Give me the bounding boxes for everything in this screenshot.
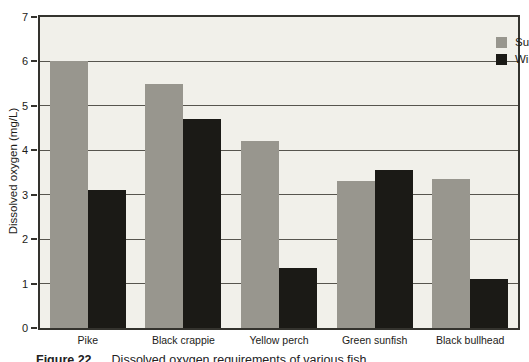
bar-summer-black-bullhead	[432, 179, 470, 328]
bar-winter-green-sunfish	[375, 170, 413, 328]
y-tick-mark-6	[31, 60, 37, 62]
figure-caption-label: Figure 22	[36, 353, 92, 362]
bar-winter-yellow-perch	[279, 268, 317, 328]
bar-winter-black-bullhead	[470, 279, 508, 328]
bar-winter-pike	[88, 190, 126, 328]
x-tick-label-yellow-perch: Yellow perch	[224, 334, 334, 346]
legend: Summer Winter	[496, 36, 529, 70]
bar-summer-yellow-perch	[241, 141, 279, 328]
dissolved-oxygen-bar-chart: Summer Winter 01234567 Dissolved oxygen …	[0, 0, 529, 362]
gridline-5	[40, 105, 518, 106]
y-tick-mark-4	[31, 149, 37, 151]
y-tick-mark-7	[31, 16, 37, 18]
y-tick-label-1: 1	[6, 278, 28, 290]
legend-item-summer: Summer	[496, 36, 529, 48]
bar-summer-black-crappie	[145, 84, 183, 328]
y-tick-label-6: 6	[6, 55, 28, 67]
legend-item-winter: Winter	[496, 53, 529, 65]
y-tick-mark-3	[31, 194, 37, 196]
figure-caption: Figure 22Dissolved oxygen requirements o…	[36, 353, 367, 362]
x-tick-label-black-bullhead: Black bullhead	[415, 334, 525, 346]
bar-winter-black-crappie	[183, 119, 221, 328]
x-tick-label-green-sunfish: Green sunfish	[320, 334, 430, 346]
legend-label-summer: Summer	[515, 36, 529, 48]
gridline-6	[40, 61, 518, 62]
gridline-4	[40, 150, 518, 151]
x-tick-label-pike: Pike	[33, 334, 143, 346]
x-tick-label-black-crappie: Black crappie	[128, 334, 238, 346]
plot-area: Summer Winter	[38, 15, 520, 330]
y-tick-label-7: 7	[6, 11, 28, 23]
legend-swatch-winter-icon	[496, 54, 507, 65]
y-tick-mark-5	[31, 105, 37, 107]
y-tick-mark-0	[31, 327, 37, 329]
y-tick-mark-1	[31, 283, 37, 285]
legend-label-winter: Winter	[515, 53, 529, 65]
y-tick-mark-2	[31, 238, 37, 240]
figure-caption-text: Dissolved oxygen requirements of various…	[112, 353, 367, 362]
y-axis-title: Dissolved oxygen (mg/L)	[7, 96, 19, 246]
bar-summer-pike	[50, 61, 88, 328]
y-tick-label-0: 0	[6, 322, 28, 334]
bar-summer-green-sunfish	[337, 181, 375, 328]
legend-swatch-summer-icon	[496, 37, 507, 48]
